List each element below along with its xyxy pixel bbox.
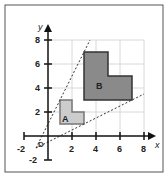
- x-tick-label: 4: [93, 144, 98, 154]
- diagram-frame: x y -2 2 4 6 8 8 6 4 2 -2 D A B: [0, 0, 168, 177]
- y-tick-label: 4: [35, 83, 40, 93]
- center-label: D: [38, 140, 44, 149]
- x-tick-label: 6: [117, 144, 122, 154]
- shape-b-label: B: [96, 81, 103, 91]
- x-tick-label: 8: [141, 144, 146, 154]
- x-tick-label: 2: [69, 144, 74, 154]
- x-tick-label: -2: [17, 144, 25, 154]
- y-axis-label: y: [37, 22, 43, 32]
- y-tick-label: 2: [35, 107, 40, 117]
- y-tick-label: 8: [35, 35, 40, 45]
- y-tick-label: -2: [29, 155, 37, 165]
- x-axis-label: x: [154, 140, 160, 150]
- shape-a-label: A: [62, 114, 69, 124]
- y-tick-label: 6: [35, 59, 40, 69]
